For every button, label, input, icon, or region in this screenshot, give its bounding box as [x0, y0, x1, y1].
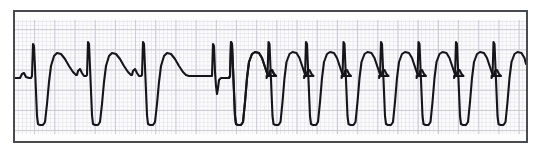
ecg-beat [492, 42, 527, 125]
ecg-screenshot [0, 0, 539, 153]
ecg-tachycardia-beats [229, 42, 526, 125]
ecg-strip [13, 10, 528, 143]
ecg-segment-sinus-ectopic [15, 42, 195, 125]
ecg-segment-pause-and-narrow-beat [195, 44, 225, 94]
ecg-waveform-trace [15, 12, 526, 141]
